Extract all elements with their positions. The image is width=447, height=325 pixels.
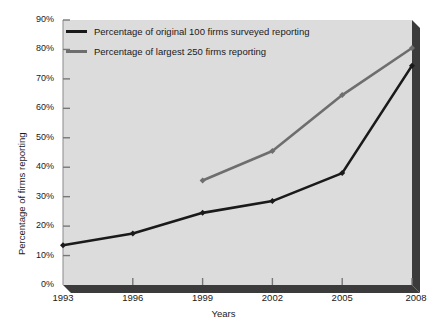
legend-label-series-2: Percentage of largest 250 firms reportin…	[94, 46, 266, 57]
y-tick-label: 0%	[20, 280, 54, 289]
legend-item-series-1: Percentage of original 100 firms surveye…	[66, 26, 309, 37]
y-tick-label: 80%	[20, 44, 54, 53]
legend-swatch-series-2	[66, 50, 87, 54]
y-tick-label: 60%	[20, 103, 54, 112]
y-axis-title: Percentage of firms reporting	[16, 132, 27, 255]
x-tick-label: 2008	[393, 293, 439, 303]
x-axis-title: Years	[0, 308, 447, 319]
legend-label-series-1: Percentage of original 100 firms surveye…	[94, 26, 309, 37]
axis-shadow-right	[412, 20, 420, 293]
chart-container: 0%10%20%30%40%50%60%70%80%90% 1993199619…	[0, 0, 447, 325]
axis-shadow-bottom	[63, 285, 420, 293]
legend-swatch-series-1	[66, 30, 87, 34]
x-tick-label: 2002	[249, 293, 295, 303]
x-tick-label: 1993	[40, 293, 86, 303]
x-tick-label: 1999	[180, 293, 226, 303]
legend-item-series-2: Percentage of largest 250 firms reportin…	[66, 46, 266, 57]
y-tick-label: 90%	[20, 15, 54, 24]
y-tick-label: 70%	[20, 74, 54, 83]
x-tick-label: 1996	[110, 293, 156, 303]
plot-area	[63, 20, 412, 285]
x-tick-label: 2005	[319, 293, 365, 303]
